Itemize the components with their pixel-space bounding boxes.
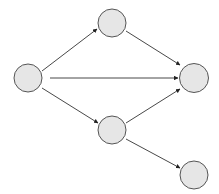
edge-n4-n3-arrow (126, 89, 180, 123)
node-n1 (14, 64, 42, 92)
node-n2 (98, 9, 126, 37)
directed-graph (0, 0, 219, 194)
node-n4 (98, 116, 126, 144)
nodes-layer (14, 9, 209, 189)
edge-n2-n3-arrow (126, 31, 180, 65)
edge-n1-n4-arrow (42, 88, 98, 123)
edge-n1-n2-arrow (42, 29, 97, 71)
node-n3 (180, 64, 209, 93)
edge-n4-n5-arrow (126, 139, 180, 168)
node-n5 (180, 161, 208, 189)
edges-layer (42, 29, 180, 168)
